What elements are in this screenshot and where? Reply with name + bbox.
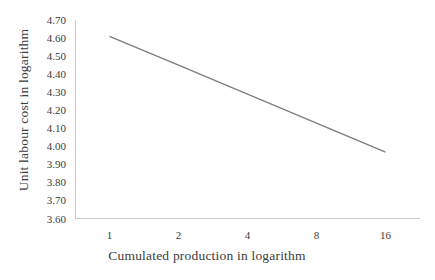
y-tick-label: 3.90 [28, 158, 66, 171]
y-tick-label: 3.70 [28, 194, 66, 207]
y-tick-label: 3.80 [28, 176, 66, 189]
y-tick-label: 4.40 [28, 68, 66, 81]
learning-curve-chart: Unit labour cost in logarithm 4.704.604.… [0, 0, 435, 280]
y-axis-tick-labels: 4.704.604.504.404.304.204.104.003.903.80… [28, 20, 66, 219]
x-axis-tick-labels: 124816 [75, 229, 420, 243]
x-tick-label: 2 [176, 229, 182, 242]
x-axis-title: Cumulated production in logarithm [108, 248, 305, 264]
plot-area [75, 20, 420, 219]
x-tick-label: 8 [314, 229, 320, 242]
y-tick-label: 4.70 [28, 14, 66, 27]
y-tick-label: 4.10 [28, 122, 66, 135]
y-tick-label: 4.00 [28, 140, 66, 153]
x-tick-label: 4 [245, 229, 251, 242]
y-tick-label: 3.60 [28, 213, 66, 226]
x-tick-label: 16 [380, 229, 391, 242]
y-tick-label: 4.30 [28, 86, 66, 99]
y-tick-label: 4.50 [28, 50, 66, 63]
y-tick-label: 4.60 [28, 32, 66, 45]
y-tick-label: 4.20 [28, 104, 66, 117]
unit-labour-cost-line [110, 36, 386, 152]
x-tick-label: 1 [107, 229, 113, 242]
plot-svg [75, 20, 420, 219]
